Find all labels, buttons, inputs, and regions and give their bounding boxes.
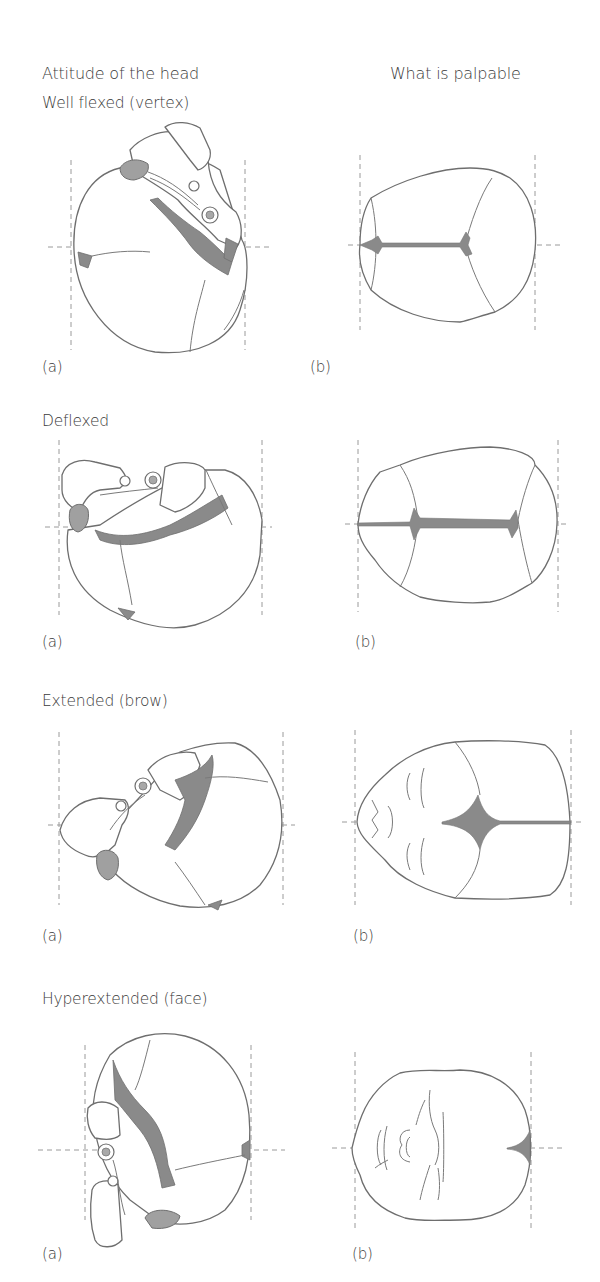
hyperextended-face-view-figure <box>0 0 600 1282</box>
label-b-hyperextended: (b) <box>352 1245 373 1263</box>
